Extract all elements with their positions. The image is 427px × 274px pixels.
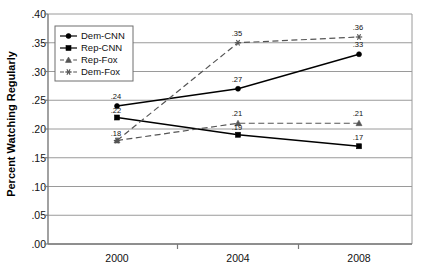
data-label: .35 bbox=[232, 29, 242, 38]
data-label: .22 bbox=[111, 106, 121, 115]
data-point-marker bbox=[357, 52, 362, 57]
data-label: .18 bbox=[111, 129, 121, 138]
data-label: .24 bbox=[111, 92, 121, 101]
legend-label: Dem-Fox bbox=[81, 66, 120, 77]
data-label: .17 bbox=[353, 133, 363, 142]
data-label: .27 bbox=[232, 75, 242, 84]
plot-area: .24.27.33.22.19.17.18.21.21.35.36 Dem-CN… bbox=[0, 0, 427, 274]
data-label: .21 bbox=[232, 109, 242, 118]
data-point-marker bbox=[66, 34, 71, 39]
data-label: .19 bbox=[232, 123, 242, 132]
legend-label: Rep-CNN bbox=[81, 42, 122, 53]
data-point-marker bbox=[236, 86, 241, 91]
data-label: .21 bbox=[353, 109, 363, 118]
legend-label: Dem-CNN bbox=[81, 30, 125, 41]
legend-label: Rep-Fox bbox=[81, 54, 118, 65]
data-point-marker bbox=[356, 34, 362, 40]
x-axis-ticks bbox=[178, 244, 299, 249]
data-point-marker bbox=[357, 144, 362, 149]
chart-legend: Dem-CNNRep-CNNRep-FoxDem-Fox bbox=[55, 26, 133, 81]
data-label: .36 bbox=[353, 23, 363, 32]
data-point-marker bbox=[66, 46, 71, 51]
data-point-marker bbox=[236, 132, 241, 137]
data-point-marker bbox=[115, 115, 120, 120]
chart-figure: Percent Watching Regularly .40 .35 .30 .… bbox=[0, 0, 427, 274]
data-label: .33 bbox=[353, 40, 363, 49]
